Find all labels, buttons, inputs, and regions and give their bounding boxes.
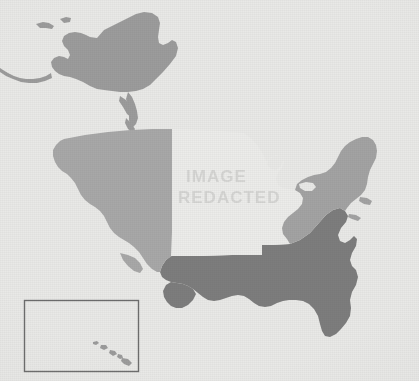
region-west[interactable] (53, 129, 172, 273)
watermark-line-1: IMAGE (186, 167, 247, 186)
watermark-line-2: REDACTED (178, 188, 280, 207)
region-hawaii[interactable] (93, 341, 132, 366)
us-choropleth-map: IMAGE REDACTED (0, 0, 419, 381)
region-alaska[interactable] (0, 12, 178, 144)
map-figure: IMAGE REDACTED (0, 0, 419, 381)
